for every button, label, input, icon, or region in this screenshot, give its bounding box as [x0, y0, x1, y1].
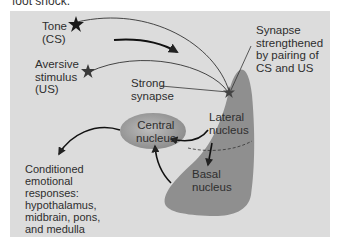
strong-synapse-label: Strong synapse — [131, 77, 174, 102]
aversive-star-icon — [81, 64, 95, 78]
conditioned-responses-label: Conditioned emotional responses: hypotha… — [25, 163, 100, 235]
central-nucleus-label: Central nucleus — [136, 119, 176, 144]
amygdala-shape — [165, 69, 255, 216]
basal-to-central-arrow — [155, 146, 171, 183]
tone-star-icon — [68, 16, 84, 32]
pairing-arrow — [114, 40, 177, 53]
basal-nucleus-label: Basal nucleus — [192, 168, 232, 193]
tone-label: Tone (CS) — [42, 20, 67, 45]
synapse-strengthened-label: Synapse strengthened by pairing of CS an… — [256, 24, 323, 74]
central-to-output-arrow — [59, 128, 120, 154]
lateral-nucleus-label: Lateral nucleus — [209, 111, 249, 136]
aversive-stimulus-label: Aversive stimulus (US) — [35, 58, 79, 96]
